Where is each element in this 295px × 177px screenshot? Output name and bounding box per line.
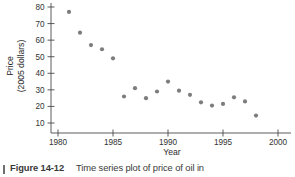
data-point (89, 43, 93, 47)
y-tick-label: 80 (35, 3, 45, 12)
y-tick-label: 30 (35, 86, 45, 95)
data-point (177, 89, 181, 93)
caption-rule (3, 165, 5, 174)
data-point (210, 104, 214, 108)
data-point (166, 79, 170, 83)
y-tick-label: 10 (35, 119, 45, 128)
y-axis-label-line2: (2005 dollars) (16, 40, 26, 93)
data-point (122, 94, 126, 98)
caption-figure-number: Figure 14-12 (10, 162, 64, 173)
data-point (155, 89, 159, 93)
caption-body-text: Time series plot of price of oil in (76, 162, 204, 173)
y-axis-label-line1: Price (5, 56, 15, 76)
x-tick-label: 1980 (49, 138, 68, 147)
data-point (188, 93, 192, 97)
x-tick-label: 1990 (159, 138, 178, 147)
data-point (111, 56, 115, 60)
x-tick-label: 2000 (269, 138, 288, 147)
y-tick-label: 20 (35, 102, 45, 111)
scatter-plot-svg: Price (2005 dollars) 1020304050607080 19… (0, 0, 295, 158)
data-point (243, 99, 247, 103)
data-point (100, 47, 104, 51)
figure-caption: Figure 14-12 Time series plot of price o… (0, 162, 295, 177)
y-axis-label: Price (2005 dollars) (5, 40, 26, 93)
y-axis: 1020304050607080 (35, 3, 54, 133)
y-tick-label: 60 (35, 36, 45, 45)
data-point (78, 31, 82, 35)
data-point (254, 113, 258, 117)
data-point-layer (67, 10, 258, 118)
data-point (232, 95, 236, 99)
y-tick-label: 70 (35, 20, 45, 29)
y-tick-label: 40 (35, 69, 45, 78)
x-tick-label: 1995 (214, 138, 233, 147)
data-point (144, 96, 148, 100)
data-point (67, 10, 71, 14)
x-axis-label: Year (163, 147, 181, 157)
y-tick-label: 50 (35, 53, 45, 62)
x-axis: 19801985199019952000 (49, 130, 291, 148)
chart-area: Price (2005 dollars) 1020304050607080 19… (0, 0, 295, 158)
data-point (221, 102, 225, 106)
x-tick-label: 1985 (104, 138, 123, 147)
figure-container: Price (2005 dollars) 1020304050607080 19… (0, 0, 295, 177)
data-point (133, 86, 137, 90)
data-point (199, 100, 203, 104)
